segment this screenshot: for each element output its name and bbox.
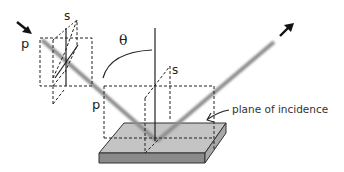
incident-s-label: s xyxy=(64,10,70,22)
reflect-p-label: p xyxy=(92,98,100,111)
incident-beam xyxy=(42,40,157,141)
diagram-canvas xyxy=(0,0,344,172)
plane-of-incidence-label: plane of incidence xyxy=(232,104,328,115)
angle-arc xyxy=(103,50,152,78)
plane-pointer-arrow-icon xyxy=(207,110,229,122)
reflection-diagram: p s θ p s plane of incidence xyxy=(0,0,344,172)
reflecting-slab xyxy=(99,123,226,163)
reflect-s-label: s xyxy=(172,64,178,76)
angle-theta-label: θ xyxy=(119,33,127,47)
reflected-arrow-icon xyxy=(280,23,294,36)
incident-p-label: p xyxy=(21,37,29,50)
incident-arrow-icon xyxy=(17,22,32,34)
